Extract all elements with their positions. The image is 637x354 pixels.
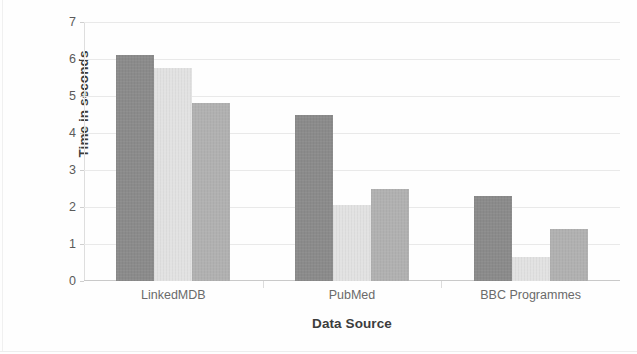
scan-edge-bottom: [0, 351, 637, 352]
bar: [550, 229, 588, 281]
y-axis-tick-mark: [80, 281, 84, 282]
bar: [512, 257, 550, 281]
x-axis-category-labels: LinkedMDBPubMedBBC Programmes: [84, 288, 620, 308]
y-axis-tick-mark: [80, 170, 84, 171]
bar: [333, 205, 371, 281]
bar: [154, 68, 192, 281]
y-axis-tick-mark: [80, 96, 84, 97]
y-axis-tick-label: 2: [46, 201, 76, 214]
plot-area: [84, 22, 620, 281]
y-axis-tick-mark: [80, 59, 84, 60]
y-axis-tick-mark: [80, 244, 84, 245]
y-axis-tick-label: 6: [46, 53, 76, 66]
y-axis-tick-label: 4: [46, 127, 76, 140]
y-axis-line: [84, 22, 85, 281]
bar: [295, 115, 333, 282]
x-axis-category-label: LinkedMDB: [84, 288, 263, 302]
y-axis-tick-mark: [80, 133, 84, 134]
y-axis-tick-mark: [80, 22, 84, 23]
bar: [371, 189, 409, 282]
y-axis-tick-label: 0: [46, 275, 76, 288]
y-axis-tick-labels: 76543210: [46, 22, 76, 281]
bar-chart-figure: Time in seconds 76543210 LinkedMDBPubMed…: [0, 0, 637, 354]
x-axis-category-label: BBC Programmes: [441, 288, 620, 302]
y-axis-tick-label: 3: [46, 164, 76, 177]
bar: [116, 55, 154, 281]
scan-edge-left: [2, 0, 3, 352]
y-axis-tick-label: 5: [46, 90, 76, 103]
gridline: [84, 59, 620, 60]
bar: [474, 196, 512, 281]
category-divider: [263, 281, 264, 288]
y-axis-tick-label: 1: [46, 238, 76, 251]
y-axis-tick-mark: [80, 207, 84, 208]
gridline: [84, 22, 620, 23]
y-axis-tick-label: 7: [46, 16, 76, 29]
x-axis-title: Data Source: [84, 316, 620, 331]
bar: [192, 103, 230, 281]
x-axis-category-label: PubMed: [263, 288, 442, 302]
category-divider: [441, 281, 442, 288]
